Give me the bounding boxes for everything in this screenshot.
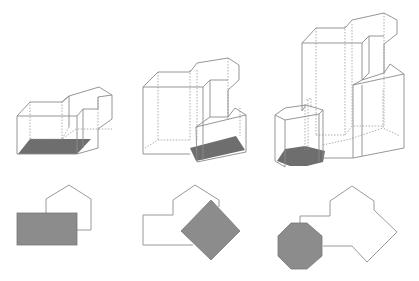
panel-3-plan-view [278,186,397,269]
panel-2-3d-view [143,58,246,162]
panel-3-footprint-octagon [278,223,322,269]
panel-3-visible-edges [275,13,404,167]
panel-2-footprint-diamond [181,200,240,260]
figure-canvas [0,0,419,281]
panel-2-hidden-edges [145,58,240,148]
panel-1-3d-view [17,87,112,154]
panel-2-footprint-shadow [190,136,245,161]
panel-1-footprint-rectangle [17,213,77,245]
panel-1-hidden-edges [30,97,112,139]
panel-1-footprint-shadow [18,139,91,154]
panel-1-plan-view [17,185,91,245]
panel-2-plan-view [143,185,240,260]
panel-3-footprint-shadow [277,146,325,166]
panel-3-3d-view [275,13,404,167]
